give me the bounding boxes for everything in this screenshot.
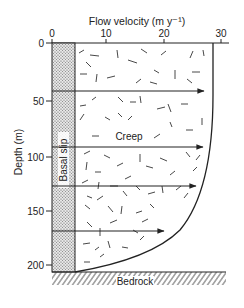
ice-texture <box>79 49 204 262</box>
x-tick-label: 30 <box>215 28 227 39</box>
velocity-profile-curve <box>75 43 213 272</box>
x-axis-ticks: 0 10 20 30 <box>49 28 227 43</box>
bedrock-label: Bedrock <box>117 276 155 287</box>
y-tick-label: 150 <box>27 206 44 217</box>
y-axis-ticks: 0 50 100 150 200 <box>27 38 52 271</box>
y-axis-title: Depth (m) <box>12 129 24 176</box>
x-tick-label: 20 <box>158 28 170 39</box>
y-tick-label: 100 <box>27 152 44 163</box>
x-tick-label: 0 <box>49 28 55 39</box>
y-tick-label: 200 <box>27 260 44 271</box>
x-axis-title: Flow velocity (m y⁻¹) <box>89 15 185 27</box>
y-tick-label: 0 <box>38 38 44 49</box>
creep-label: Creep <box>115 131 143 142</box>
x-tick-label: 10 <box>100 28 112 39</box>
y-tick-label: 50 <box>33 96 45 107</box>
glacier-flow-diagram: Flow velocity (m y⁻¹) 0 10 20 30 0 50 10… <box>0 0 244 308</box>
basal-slip-label: Basal slip <box>58 138 69 181</box>
